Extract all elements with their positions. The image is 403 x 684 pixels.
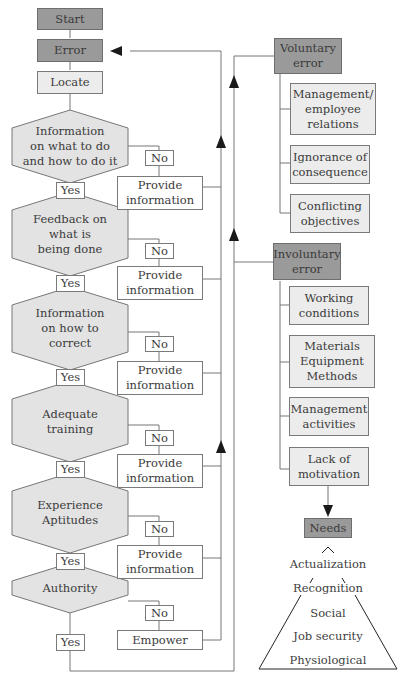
error-node: Error xyxy=(37,39,103,62)
cause-management-activities: Management activities xyxy=(289,397,369,436)
yes-label: Yes xyxy=(56,634,85,651)
cause-lack-of-motivation: Lack of motivation xyxy=(289,447,369,486)
empower-box: Empower xyxy=(117,630,203,650)
needs-node: Needs xyxy=(304,518,352,538)
provide-information-box: Provide information xyxy=(117,545,203,579)
yes-label: Yes xyxy=(56,553,85,570)
arrow-down-icon xyxy=(323,505,333,517)
yes-label: Yes xyxy=(56,461,85,478)
decision-information-how-to-correct: Information on how to correct xyxy=(14,290,126,367)
start-node: Start xyxy=(37,8,103,30)
arrow-into-error-icon xyxy=(110,46,122,56)
cause-materials-equipment-methods: Materials Equipment Methods xyxy=(289,335,375,388)
decision-authority: Authority xyxy=(14,566,126,610)
arrow-up-icon xyxy=(229,75,239,88)
locate-node: Locate xyxy=(37,71,103,94)
provide-information-box: Provide information xyxy=(117,454,203,488)
provide-information-box: Provide information xyxy=(117,361,203,395)
decision-information-what-to-do: Information on what to do and how to do … xyxy=(14,113,126,179)
no-label: No xyxy=(145,336,174,352)
cause-conflicting-objectives: Conflicting objectives xyxy=(290,194,370,233)
yes-label: Yes xyxy=(56,275,85,292)
decision-experience-aptitudes: Experience Aptitudes xyxy=(14,476,126,550)
no-label: No xyxy=(145,430,174,446)
arrow-up-icon xyxy=(229,228,239,241)
no-label: No xyxy=(145,150,174,166)
cause-management-employee-relations: Management/ employee relations xyxy=(290,83,376,135)
voluntary-error-node: Voluntary error xyxy=(274,38,342,74)
cause-working-conditions: Working conditions xyxy=(289,286,369,325)
no-label: No xyxy=(145,605,174,621)
need-recognition: Recognition xyxy=(268,581,388,595)
need-physiological: Physiological xyxy=(268,653,388,667)
no-label: No xyxy=(145,243,174,259)
yes-label: Yes xyxy=(56,369,85,386)
cause-ignorance-of-consequence: Ignorance of consequence xyxy=(290,145,370,184)
arrow-up-icon xyxy=(216,440,226,453)
no-label: No xyxy=(145,521,174,537)
provide-information-box: Provide information xyxy=(117,266,203,300)
decision-adequate-training: Adequate training xyxy=(14,384,126,459)
need-actualization: Actualization xyxy=(268,557,388,571)
decision-feedback: Feedback on what is being done xyxy=(14,195,126,273)
need-social: Social xyxy=(268,606,388,620)
yes-label: Yes xyxy=(56,182,85,199)
involuntary-error-node: Involuntary error xyxy=(273,243,341,280)
need-job-security: Job security xyxy=(268,629,388,643)
arrow-up-icon xyxy=(216,135,226,148)
error-flowchart: Start Error Locate Information on what t… xyxy=(0,0,403,684)
provide-information-box: Provide information xyxy=(117,176,203,210)
